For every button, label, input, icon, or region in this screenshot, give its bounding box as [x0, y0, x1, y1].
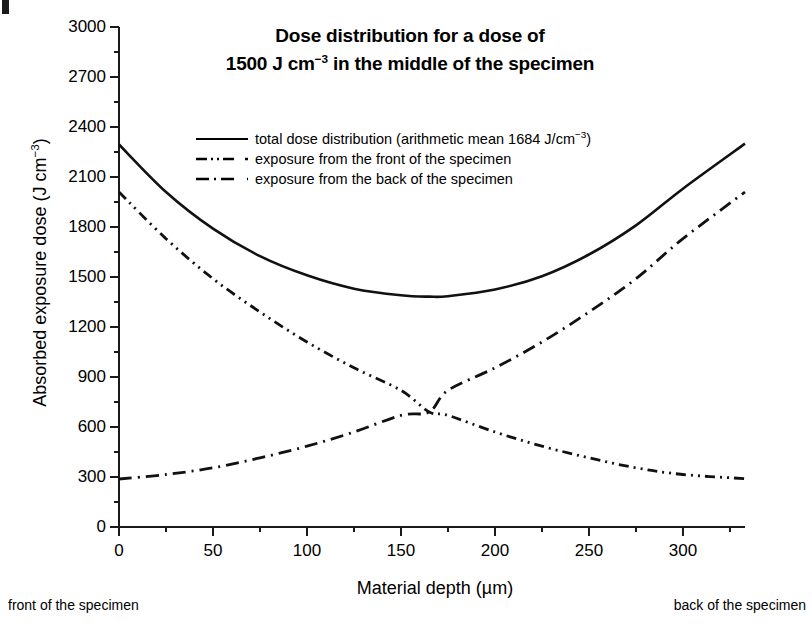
y-tick-label: 1200: [26, 317, 106, 337]
y-tick-label: 300: [26, 467, 106, 487]
x-tick-label: 50: [178, 541, 248, 561]
y-tick-label: 2100: [26, 167, 106, 187]
curve-total-dose: [119, 144, 745, 297]
y-tick-label: 1800: [26, 217, 106, 237]
x-tick-label: 100: [272, 541, 342, 561]
y-tick-label: 2700: [26, 67, 106, 87]
y-tick-label: 1500: [26, 267, 106, 287]
x-tick-label: 300: [648, 541, 718, 561]
plot-area: [0, 0, 812, 631]
y-tick-label: 2400: [26, 117, 106, 137]
x-tick-label: 200: [460, 541, 530, 561]
curve-back-exposure: [119, 192, 745, 479]
x-tick-label: 150: [366, 541, 436, 561]
y-tick-label: 3000: [26, 17, 106, 37]
x-tick-label: 0: [84, 541, 154, 561]
curve-front-exposure: [119, 192, 745, 479]
y-tick-label: 900: [26, 367, 106, 387]
y-tick-label: 600: [26, 417, 106, 437]
y-tick-label: 0: [26, 517, 106, 537]
chart-figure: Dose distribution for a dose of 1500 J c…: [0, 0, 812, 631]
x-tick-label: 250: [554, 541, 624, 561]
